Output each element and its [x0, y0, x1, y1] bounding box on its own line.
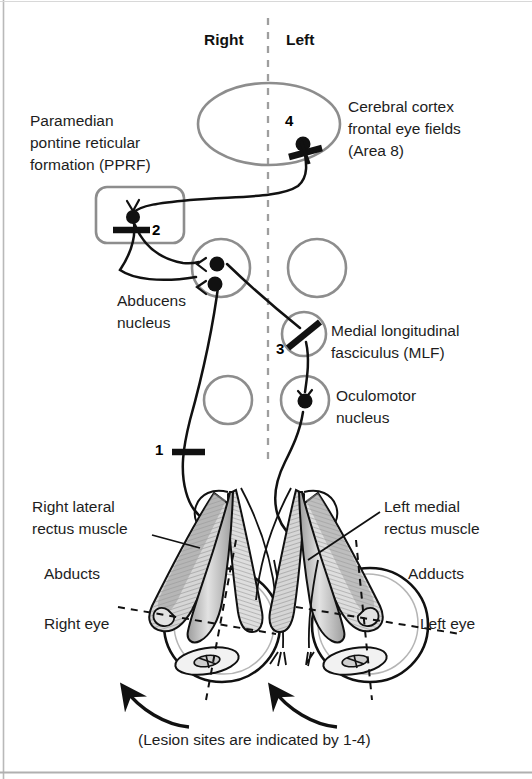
pprf-label-line3: formation (PPRF) [30, 154, 151, 176]
abducts-label: Abducts [44, 563, 100, 585]
mlf-label-line1: Medial longitudinal [331, 320, 459, 342]
pprf-label-line2: pontine reticular [30, 132, 140, 154]
abducens-label-line2: nucleus [117, 312, 170, 334]
synapse-dot-abducens-inter [208, 277, 223, 292]
right-eye-assembly [118, 488, 286, 727]
cortex-label-line3: (Area 8) [348, 140, 404, 162]
oculomotor-label-line1: Oculomotor [336, 385, 416, 407]
abducens-nerve-cn6 [183, 280, 219, 519]
cortex-label-line1: Cerebral cortex [348, 96, 454, 118]
left-medial-rectus-label-line2: rectus muscle [384, 518, 480, 540]
lesion-number-4: 4 [285, 112, 293, 129]
lesion-mark-3 [288, 322, 320, 348]
right-lateral-rectus-label-line2: rectus muscle [32, 518, 128, 540]
synapse-dot-oculomotor [298, 394, 313, 409]
left-medial-rectus-label-line1: Left medial [384, 496, 460, 518]
header-left: Left [286, 31, 314, 49]
right-gaze-arrow [124, 688, 189, 727]
figure-caption: (Lesion sites are indicated by 1-4) [138, 731, 371, 749]
lesion-number-2: 2 [152, 221, 160, 238]
figure-canvas: Right Left Paramedian pontine reticular … [0, 0, 532, 779]
mlf-to-oculomotor-tract [305, 342, 308, 392]
synapse-dot-pprf [126, 210, 140, 224]
pprf-label-line1: Paramedian [30, 110, 114, 132]
oculomotor-label-line2: nucleus [336, 407, 389, 429]
right-lateral-rectus-label-line1: Right lateral [32, 496, 115, 518]
left-abducens-nucleus-circle [288, 239, 346, 297]
cortex-label-line2: frontal eye fields [348, 118, 461, 140]
right-eye-label: Right eye [44, 613, 109, 635]
synapse-dots [126, 137, 313, 409]
left-eye-label: Left eye [420, 613, 475, 635]
adducts-label: Adducts [408, 563, 464, 585]
right-oculomotor-circle [204, 376, 252, 424]
lesion-number-1: 1 [155, 441, 163, 458]
abducens-label-line1: Abducens [117, 290, 186, 312]
lesion-number-3: 3 [276, 340, 284, 357]
mlf-label-line2: fasciculus (MLF) [331, 342, 445, 364]
synapse-dot-abducens-motor [210, 257, 225, 272]
left-gaze-arrow [272, 688, 337, 727]
cerebral-cortex-outline [198, 83, 340, 165]
header-right: Right [204, 31, 244, 49]
